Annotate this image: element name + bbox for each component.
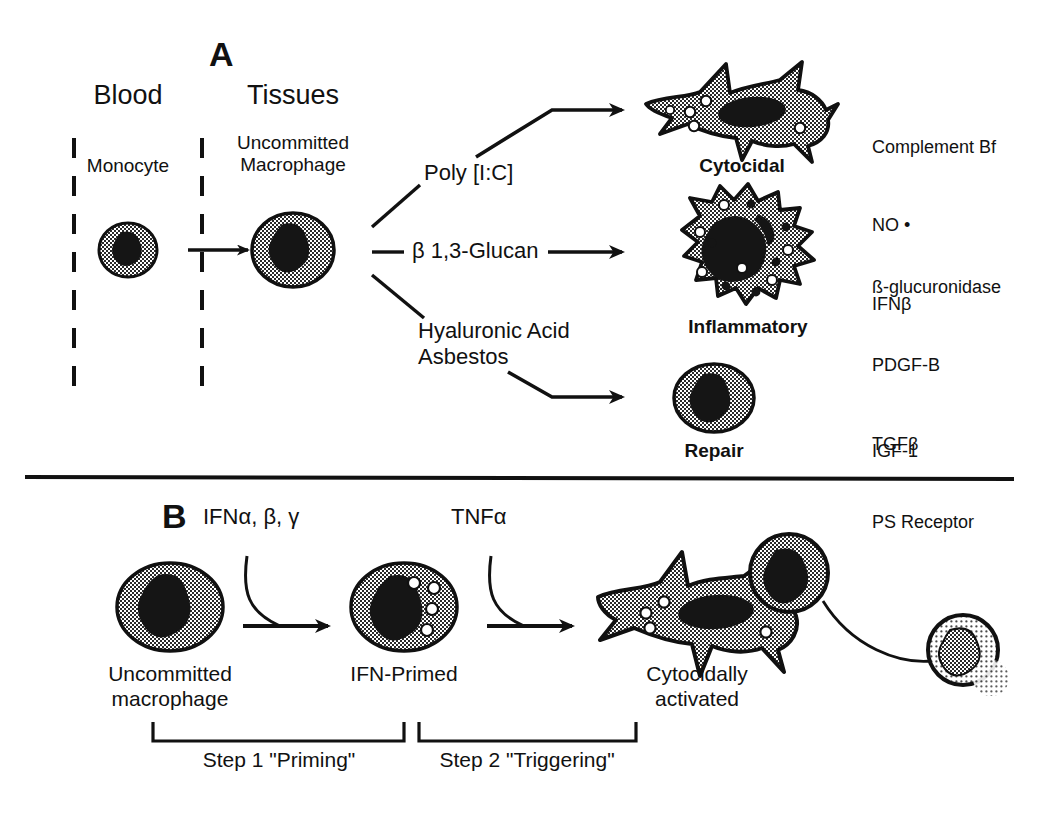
signal-tnf: TNFα [451,504,506,530]
panel-a-letter: A [209,34,234,74]
cell-uncommitted-macrophage [252,213,334,287]
arrow-to-repair [508,372,622,397]
tnf-signal-curve [489,556,524,626]
signal-ifn: IFNα, β, γ [203,504,299,530]
cell-inflammatory [682,184,814,304]
stimulus-beta-glucan: β 1,3-Glucan [412,238,538,264]
state-uncommitted-macrophage: Uncommitted macrophage [108,661,232,711]
product-item: Complement Bf [872,134,996,160]
cell-monocyte [99,223,157,277]
state-cytocidally-activated: Cytocidally activated [646,661,748,711]
uncommitted-macrophage-label: Uncommitted Macrophage [237,132,349,177]
product-item: IGF-1 [872,438,918,464]
product-item: PDGF-B [872,352,1001,378]
repair-products: IGF-1 [872,386,918,516]
monocyte-label: Monocyte [87,155,169,177]
stimulus-poly-ic: Poly [I:C] [424,160,513,186]
cell-cytocidal [646,62,838,162]
cell-target-lysed [928,615,1009,696]
arrow-to-cytocidal [476,110,622,157]
state-ifn-primed: IFN-Primed [350,661,457,686]
bracket-step-2 [419,722,636,741]
cytocidal-label: Cytocidal [699,155,785,177]
cell-target-intact [750,534,828,612]
product-item: ß-glucuronidase [872,274,1001,300]
panel-divider-rule [25,477,1014,479]
panel-b-letter: B [162,496,187,536]
step-1-label: Step 1 "Priming" [203,748,356,773]
cell-ifn-primed [351,563,457,651]
cell-repair [674,364,754,432]
step-2-label: Step 2 "Triggering" [439,748,614,773]
figure-canvas: A Blood Tissues Monocyte Uncommitted Mac… [0,0,1038,816]
tissues-header: Tissues [247,80,339,112]
inflammatory-label: Inflammatory [688,316,807,338]
bracket-step-1 [153,722,404,741]
repair-label: Repair [684,440,743,462]
cell-b-uncommitted-macrophage [117,563,223,651]
lysis-connector-line [823,601,932,661]
stimulus-hyaluronic-asbestos: Hyaluronic Acid Asbestos [418,318,570,370]
blood-header: Blood [93,80,162,112]
ifn-signal-curve [245,556,280,626]
